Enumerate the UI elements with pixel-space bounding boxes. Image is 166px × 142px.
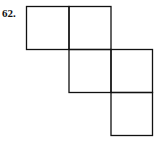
square-net-diagram (0, 0, 166, 142)
square-r1-c1 (69, 50, 111, 93)
square-r0-c0 (27, 7, 70, 50)
square-r1-c2 (111, 50, 153, 93)
square-r0-c1 (69, 7, 111, 50)
square-r2-c2 (111, 93, 153, 136)
